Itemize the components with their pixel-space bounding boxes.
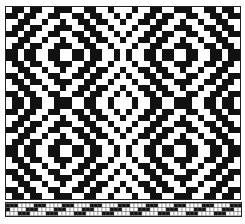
woven-pattern-grid — [6, 7, 240, 199]
draft-grid — [6, 203, 241, 216]
threading-draft-strip — [5, 202, 242, 217]
pattern-frame — [5, 6, 241, 200]
